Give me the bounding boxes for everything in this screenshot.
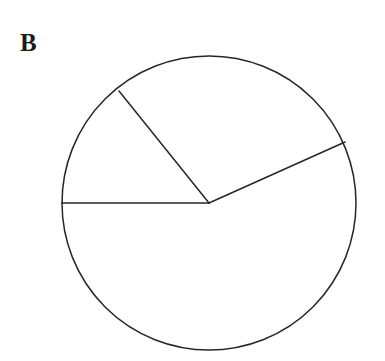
pie-circle-diagram [0, 0, 385, 361]
figure-canvas: B [0, 0, 385, 361]
